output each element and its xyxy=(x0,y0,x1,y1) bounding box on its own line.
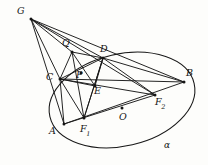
point-label-B: B xyxy=(186,68,193,78)
point-label-P: P xyxy=(76,70,82,80)
point-label-text-D: D xyxy=(100,43,108,54)
vertex-O xyxy=(121,107,124,110)
point-label-E: E xyxy=(94,86,101,96)
point-label-text-A: A xyxy=(49,125,56,136)
vertex-A xyxy=(63,123,66,126)
geometry-figure: GQDBCPEF2OAF1α xyxy=(0,0,208,165)
point-label-O: O xyxy=(119,112,127,122)
point-label-text-Q: Q xyxy=(62,37,70,48)
vertex-F1 xyxy=(83,117,86,120)
segment-D-B xyxy=(103,58,184,82)
point-label-text-B: B xyxy=(186,67,193,78)
point-label-G: G xyxy=(17,6,25,16)
vertex-B xyxy=(183,81,186,84)
point-label-subscript-F1: 1 xyxy=(86,130,90,138)
point-label-alpha: α xyxy=(164,141,170,150)
point-label-C: C xyxy=(46,72,53,82)
segment-D-F2 xyxy=(103,58,155,95)
geometry-canvas xyxy=(0,0,208,165)
point-label-text-O: O xyxy=(119,111,127,122)
vertex-G xyxy=(30,18,33,21)
segment-Q-C xyxy=(60,52,72,79)
point-label-D: D xyxy=(100,44,108,54)
point-label-subscript-F2: 2 xyxy=(161,103,165,111)
point-label-F1: F1 xyxy=(80,124,91,136)
vertex-C xyxy=(59,78,62,81)
point-label-A: A xyxy=(49,126,56,136)
point-label-text-G: G xyxy=(17,5,25,16)
vertex-D xyxy=(102,57,105,60)
point-label-text-P: P xyxy=(76,69,82,80)
point-label-text-C: C xyxy=(46,71,53,82)
point-label-text-alpha: α xyxy=(164,140,170,150)
vertex-Q xyxy=(71,51,74,54)
point-label-Q: Q xyxy=(62,38,70,48)
point-label-F2: F2 xyxy=(155,97,166,109)
point-label-text-E: E xyxy=(94,85,101,96)
